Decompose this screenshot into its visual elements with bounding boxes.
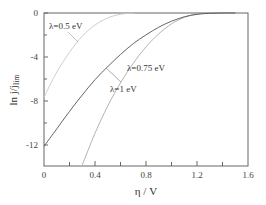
annotation-lambda-0.75: λ=0.75 eV — [127, 63, 165, 73]
plot-frame — [44, 13, 248, 166]
x-tick-label: 1.2 — [191, 170, 202, 180]
x-tick-label: 1.6 — [242, 170, 254, 180]
y-tick-label: 0 — [34, 8, 39, 18]
series-line — [44, 13, 235, 146]
y-axis-title: ln j/jlim — [7, 74, 21, 106]
x-tick-label: 0 — [42, 170, 47, 180]
curves — [44, 13, 235, 165]
y-axis-ticks — [44, 13, 48, 145]
x-tick-label: 0.8 — [140, 170, 152, 180]
annotation-leader-1 — [106, 68, 121, 82]
y-tick-label: -12 — [26, 140, 38, 150]
y-tick-label: -8 — [31, 96, 39, 106]
annotation-leader-0.5 — [68, 32, 78, 42]
chart: 0 -4 -8 -12 0 0.4 0.8 1.2 1.6 η / V ln j… — [0, 0, 266, 205]
annotation-lambda-1: λ=1 eV — [110, 84, 137, 94]
x-tick-label: 0.4 — [89, 170, 101, 180]
y-tick-label: -4 — [31, 52, 39, 62]
series-line — [82, 13, 210, 165]
annotation-lambda-0.5: λ=0.5 eV — [49, 21, 83, 31]
x-axis-title: η / V — [135, 185, 157, 197]
x-axis-ticks — [70, 161, 223, 166]
